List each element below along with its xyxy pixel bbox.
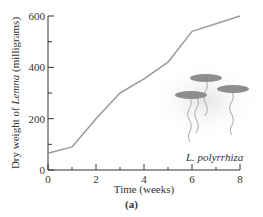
y-tick-label: 0 [40,164,46,176]
x-tick-label: 2 [93,173,99,185]
y-tick-label: 600 [29,10,46,22]
x-axis-title: Time (weeks) [114,183,175,196]
x-tick-label: 8 [237,173,243,185]
y-axis-title: Dry weight of Lemna (milligrams) [9,17,22,169]
x-tick-label: 6 [189,173,195,185]
species-annotation: L. polyrrhiza [186,151,243,163]
y-tick-label: 200 [29,113,46,125]
figure-caption: (a) [0,198,263,210]
duckweed-illustration [147,60,263,142]
line-chart: 024680200400600 Dry weight of Lemna (mil… [0,0,263,217]
x-tick-label: 0 [45,173,51,185]
y-tick-label: 400 [29,61,46,73]
